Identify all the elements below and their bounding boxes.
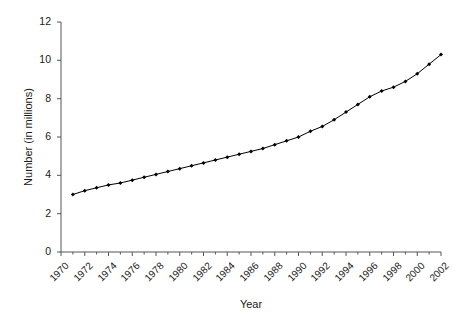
- data-point-marker: [71, 193, 75, 197]
- y-tick-label: 8: [17, 92, 51, 104]
- data-point-marker: [308, 129, 312, 133]
- data-point-marker: [225, 155, 229, 159]
- data-point-marker: [261, 147, 265, 151]
- axis-spines: [61, 22, 441, 252]
- data-point-marker: [202, 161, 206, 165]
- x-axis-ticks: [61, 252, 441, 256]
- data-point-marker: [392, 85, 396, 89]
- y-tick-label: 10: [17, 53, 51, 65]
- data-point-marker: [95, 186, 99, 190]
- y-tick-label: 12: [17, 15, 51, 27]
- data-point-marker: [178, 167, 182, 171]
- y-tick-label: 2: [17, 207, 51, 219]
- y-tick-label: 6: [17, 130, 51, 142]
- data-point-marker: [213, 158, 217, 162]
- y-tick-label: 0: [17, 245, 51, 257]
- data-point-marker: [380, 89, 384, 93]
- data-point-marker: [130, 178, 134, 182]
- x-axis-label: Year: [61, 298, 441, 310]
- data-point-marker: [83, 189, 87, 193]
- data-point-marker: [249, 149, 253, 153]
- data-point-marker: [273, 143, 277, 147]
- y-axis-ticks: [57, 22, 61, 252]
- data-point-marker: [297, 135, 301, 139]
- data-point-marker: [320, 124, 324, 128]
- data-point-marker: [237, 152, 241, 156]
- y-tick-label: 4: [17, 168, 51, 180]
- data-point-marker: [285, 139, 289, 143]
- data-point-marker: [107, 183, 111, 187]
- data-point-marker: [142, 175, 146, 179]
- chart-figure: Number (in millions) Year 024681012 1970…: [0, 0, 461, 322]
- data-point-marker: [154, 172, 158, 176]
- data-point-marker: [118, 181, 122, 185]
- data-point-marker: [190, 164, 194, 168]
- data-point-marker: [166, 170, 170, 174]
- data-series-line: [73, 55, 441, 195]
- data-series-markers: [71, 53, 443, 197]
